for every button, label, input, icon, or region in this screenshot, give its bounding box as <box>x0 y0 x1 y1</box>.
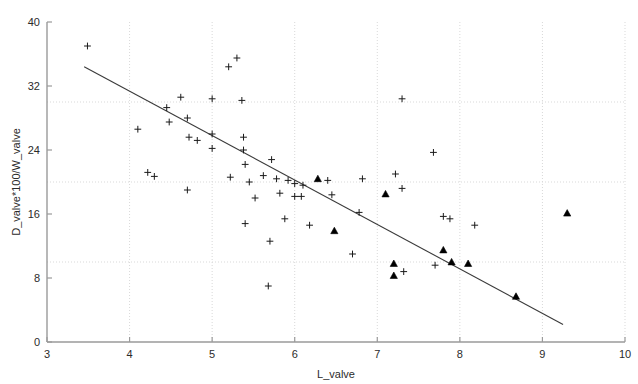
plus-marker <box>298 193 305 200</box>
plus-marker <box>227 174 234 181</box>
plus-marker <box>400 268 407 275</box>
x-tick-label: 6 <box>292 348 298 360</box>
plus-marker <box>240 134 247 141</box>
triangle-marker <box>314 175 321 181</box>
plus-marker <box>306 222 313 229</box>
trendline <box>84 67 563 325</box>
x-tick-label: 7 <box>374 348 380 360</box>
plus-marker <box>234 55 241 62</box>
plus-marker <box>273 175 280 182</box>
y-axis-title: D_valve*100/W_valve <box>10 128 22 236</box>
y-tick-label: 40 <box>28 16 40 28</box>
x-tick-label: 8 <box>457 348 463 360</box>
plus-marker <box>392 171 399 178</box>
plus-marker <box>349 251 356 258</box>
plus-marker <box>356 209 363 216</box>
x-tick-label: 5 <box>209 348 215 360</box>
triangle-marker <box>564 210 571 216</box>
plus-marker <box>281 215 288 222</box>
plus-marker <box>432 262 439 269</box>
plus-marker <box>471 222 478 229</box>
plus-marker <box>186 134 193 141</box>
plus-marker <box>151 173 158 180</box>
series-plus <box>84 43 478 290</box>
plus-marker <box>430 149 437 156</box>
x-tick-label: 4 <box>127 348 133 360</box>
x-tick-label: 9 <box>539 348 545 360</box>
y-tick-label: 32 <box>28 80 40 92</box>
series-triangle <box>314 175 571 299</box>
plus-marker <box>184 115 191 122</box>
axis-ticks: 0816243240345678910 <box>28 16 631 360</box>
plus-marker <box>225 63 232 70</box>
plus-marker <box>276 190 283 197</box>
plus-marker <box>440 213 447 220</box>
plus-marker <box>268 156 275 163</box>
plus-marker <box>209 95 216 102</box>
plus-marker <box>324 177 331 184</box>
y-tick-label: 8 <box>34 272 40 284</box>
plus-marker <box>134 126 141 133</box>
plus-marker <box>242 161 249 168</box>
plus-marker <box>246 179 253 186</box>
x-tick-label: 10 <box>619 348 631 360</box>
plus-marker <box>240 147 247 154</box>
triangle-marker <box>382 190 389 196</box>
plus-marker <box>252 195 259 202</box>
plus-marker <box>447 215 454 222</box>
triangle-marker <box>390 260 397 266</box>
plus-marker <box>144 169 151 176</box>
plus-marker <box>291 193 298 200</box>
plus-marker <box>177 94 184 101</box>
plus-marker <box>242 220 249 227</box>
plus-marker <box>194 137 201 144</box>
chart-canvas: 0816243240345678910 L_valve D_valve*100/… <box>0 0 638 384</box>
scatter-plot-figure: 0816243240345678910 L_valve D_valve*100/… <box>0 0 638 384</box>
data-points <box>84 43 571 300</box>
plus-marker <box>260 172 267 179</box>
triangle-marker <box>390 272 397 278</box>
plus-marker <box>399 185 406 192</box>
plus-marker <box>267 238 274 245</box>
triangle-marker <box>465 260 472 266</box>
y-tick-label: 24 <box>28 144 40 156</box>
plus-marker <box>328 191 335 198</box>
gridlines <box>47 22 625 342</box>
triangle-marker <box>440 246 447 252</box>
plus-marker <box>399 95 406 102</box>
y-tick-label: 16 <box>28 208 40 220</box>
triangle-marker <box>331 227 338 233</box>
x-tick-label: 3 <box>44 348 50 360</box>
plus-marker <box>359 175 366 182</box>
plus-marker <box>209 145 216 152</box>
triangle-marker <box>512 293 519 299</box>
plus-marker <box>184 187 191 194</box>
plus-marker <box>265 283 272 290</box>
x-axis-title: L_valve <box>317 368 355 380</box>
plus-marker <box>84 43 91 50</box>
y-tick-label: 0 <box>34 336 40 348</box>
plus-marker <box>166 119 173 126</box>
plus-marker <box>238 97 245 104</box>
